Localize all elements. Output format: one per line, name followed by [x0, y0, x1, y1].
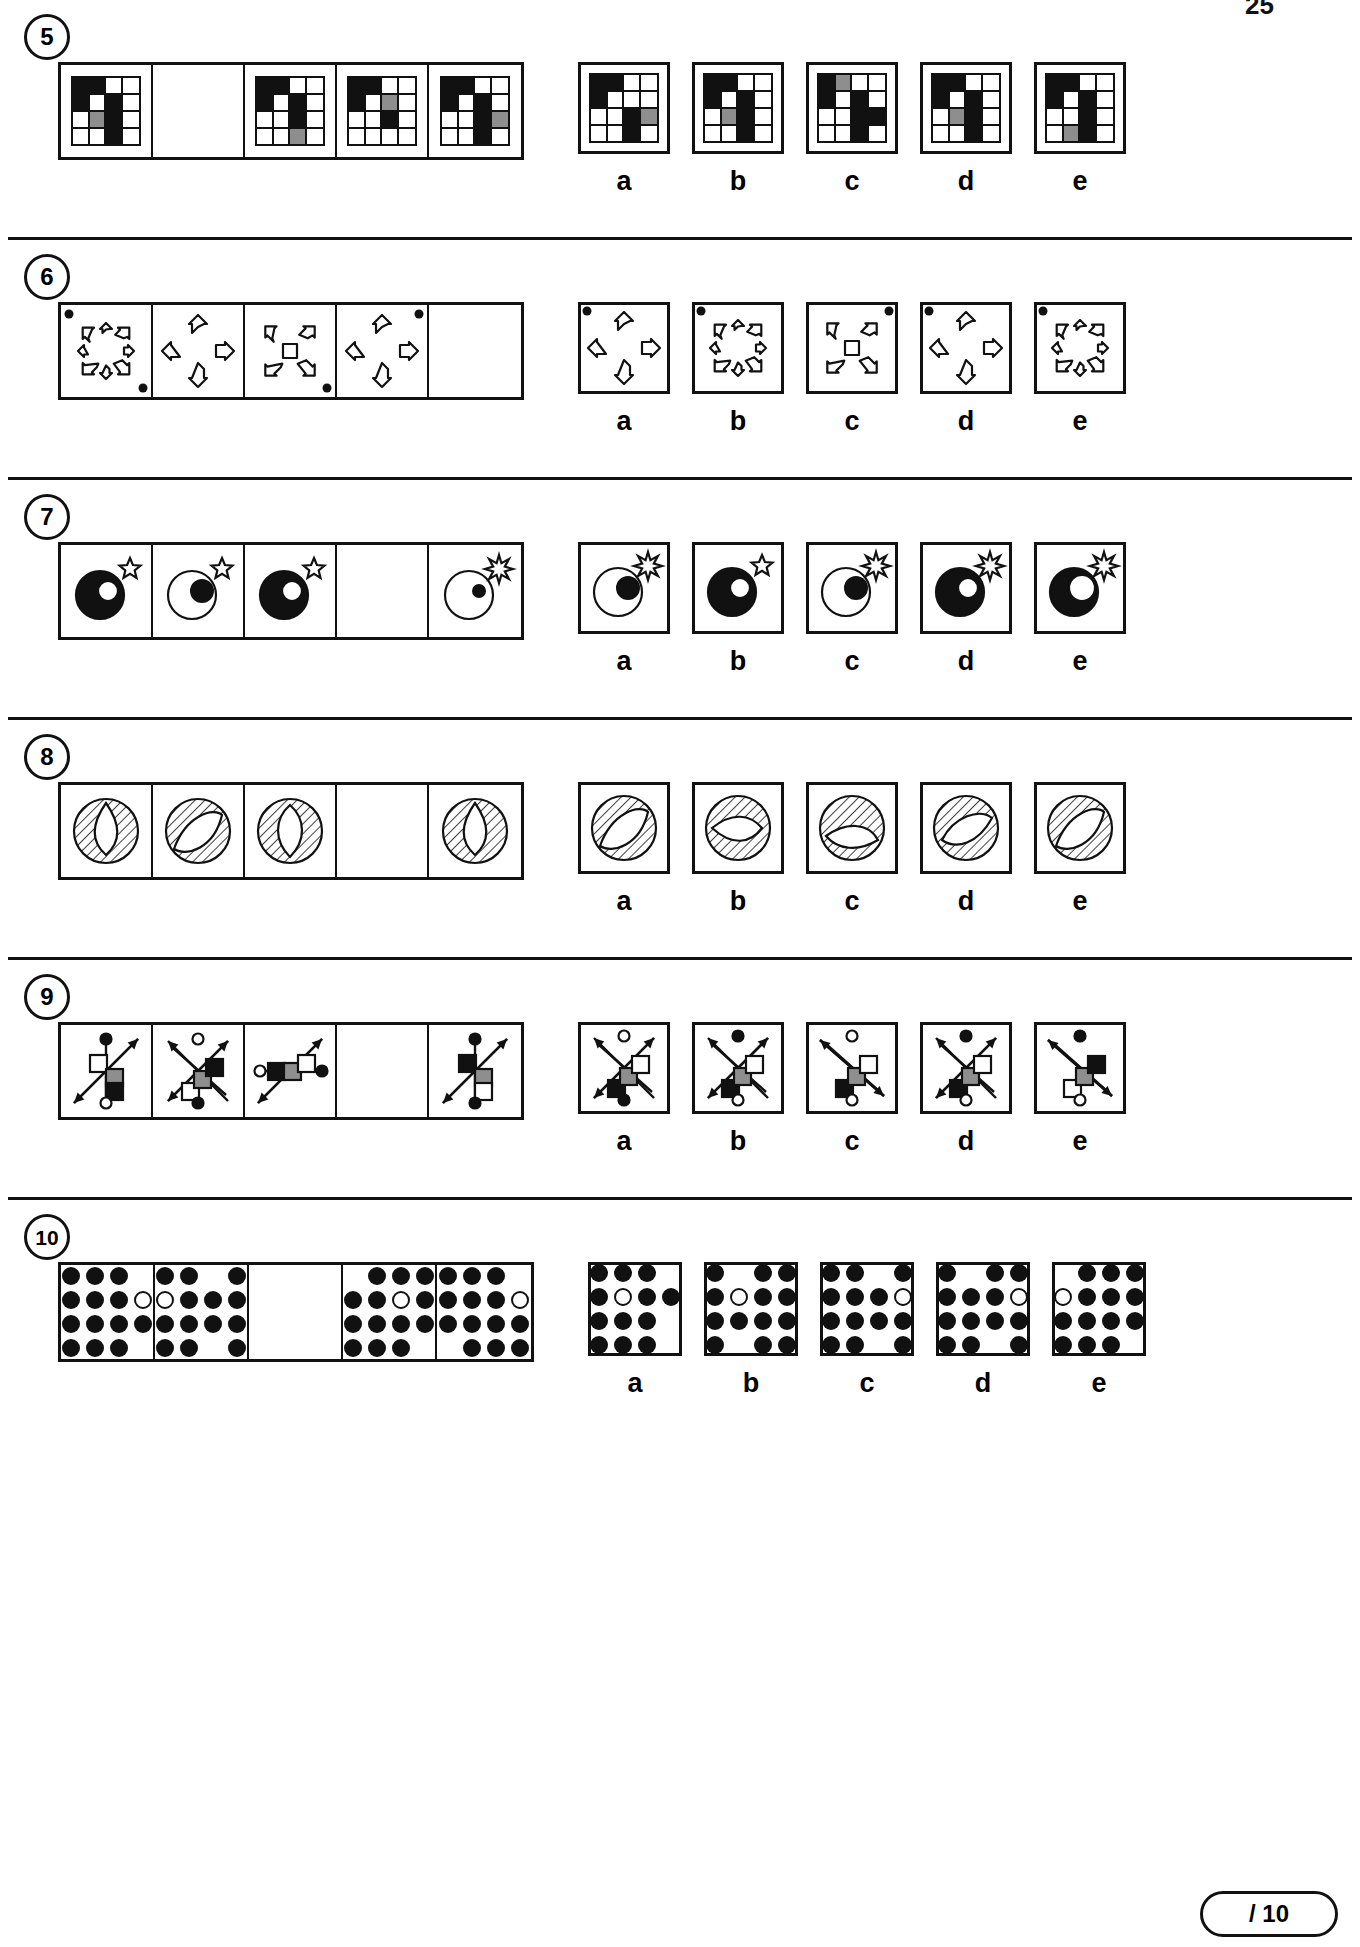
item-row: abcde: [0, 62, 1360, 197]
option-figure[interactable]: [920, 302, 1012, 394]
pattern-grid: [440, 76, 510, 146]
arrow-cluster-figure: [924, 306, 1008, 390]
answer-option-b[interactable]: b: [692, 1022, 784, 1157]
answer-option-c[interactable]: c: [806, 542, 898, 677]
option-figure[interactable]: [578, 62, 670, 154]
item-spacer: [0, 1157, 1360, 1197]
option-figure[interactable]: [806, 1022, 898, 1114]
hatched-circle-figure: [64, 789, 148, 873]
option-figure[interactable]: [920, 1022, 1012, 1114]
dot-matrix: [706, 1264, 796, 1354]
answer-option-c[interactable]: c: [806, 302, 898, 437]
option-figure[interactable]: [936, 1262, 1030, 1356]
option-figure[interactable]: [1052, 1262, 1146, 1356]
option-label: a: [616, 166, 631, 197]
answer-option-a[interactable]: a: [578, 1022, 670, 1157]
option-label: d: [958, 646, 975, 677]
answer-option-b[interactable]: b: [692, 62, 784, 197]
option-figure[interactable]: [578, 302, 670, 394]
answer-option-a[interactable]: a: [578, 62, 670, 197]
option-figure[interactable]: [1034, 542, 1126, 634]
answer-option-e[interactable]: e: [1034, 62, 1126, 197]
option-figure[interactable]: [578, 782, 670, 874]
option-figure[interactable]: [806, 542, 898, 634]
option-label: e: [1072, 886, 1087, 917]
option-figure[interactable]: [820, 1262, 914, 1356]
question-item-6: 6abcde: [0, 237, 1360, 477]
answer-option-b[interactable]: b: [692, 542, 784, 677]
option-figure[interactable]: [692, 62, 784, 154]
question-item-7: 7abcde: [0, 477, 1360, 717]
answer-option-e[interactable]: e: [1034, 542, 1126, 677]
arrow-cluster-figure: [582, 306, 666, 390]
option-label: d: [958, 406, 975, 437]
option-figure[interactable]: [692, 542, 784, 634]
answer-option-c[interactable]: c: [806, 782, 898, 917]
stem-blank-cell[interactable]: [337, 1025, 429, 1117]
option-figure[interactable]: [692, 1022, 784, 1114]
option-figure[interactable]: [806, 62, 898, 154]
stem-cell-3: [245, 305, 337, 397]
stem-blank-cell[interactable]: [429, 305, 521, 397]
answer-option-d[interactable]: d: [920, 1022, 1012, 1157]
item-number-badge: 9: [24, 974, 70, 1020]
answer-option-d[interactable]: d: [920, 302, 1012, 437]
stem-blank-cell[interactable]: [337, 545, 429, 637]
sequence-stem: [58, 782, 524, 880]
answer-option-b[interactable]: b: [692, 302, 784, 437]
option-figure[interactable]: [692, 302, 784, 394]
option-label: c: [844, 1126, 859, 1157]
dot-matrix: [62, 1267, 152, 1357]
option-figure[interactable]: [692, 782, 784, 874]
option-figure[interactable]: [920, 542, 1012, 634]
option-figure[interactable]: [806, 782, 898, 874]
answer-option-c[interactable]: c: [806, 1022, 898, 1157]
option-figure[interactable]: [920, 62, 1012, 154]
option-label: a: [616, 886, 631, 917]
option-figure[interactable]: [1034, 302, 1126, 394]
answer-option-a[interactable]: a: [578, 302, 670, 437]
arrow-cluster-figure: [1038, 306, 1122, 390]
answer-option-b[interactable]: b: [704, 1262, 798, 1399]
option-figure[interactable]: [806, 302, 898, 394]
option-label: c: [844, 886, 859, 917]
option-figure[interactable]: [578, 1022, 670, 1114]
answer-option-d[interactable]: d: [920, 782, 1012, 917]
option-figure[interactable]: [920, 782, 1012, 874]
answer-option-d[interactable]: d: [936, 1262, 1030, 1399]
option-figure[interactable]: [1034, 62, 1126, 154]
option-label: a: [616, 646, 631, 677]
item-spacer: [0, 677, 1360, 717]
option-figure[interactable]: [704, 1262, 798, 1356]
answer-option-e[interactable]: e: [1052, 1262, 1146, 1399]
answer-option-e[interactable]: e: [1034, 1022, 1126, 1157]
item-number-badge: 10: [24, 1214, 70, 1260]
answer-option-c[interactable]: c: [820, 1262, 914, 1399]
dot-matrix: [938, 1264, 1028, 1354]
answer-option-d[interactable]: d: [920, 62, 1012, 197]
stem-blank-cell[interactable]: [249, 1265, 343, 1359]
option-figure[interactable]: [1034, 1022, 1126, 1114]
answer-option-b[interactable]: b: [692, 782, 784, 917]
hatched-circle-figure: [433, 789, 517, 873]
answer-option-d[interactable]: d: [920, 542, 1012, 677]
option-figure[interactable]: [578, 542, 670, 634]
dot-matrix: [156, 1267, 246, 1357]
option-figure[interactable]: [1034, 782, 1126, 874]
arrow-cluster-figure: [156, 309, 240, 393]
answer-option-c[interactable]: c: [806, 62, 898, 197]
answer-option-a[interactable]: a: [578, 782, 670, 917]
score-box[interactable]: / 10: [1200, 1891, 1338, 1937]
item-number-badge: 5: [24, 14, 70, 60]
answer-options: abcde: [578, 782, 1126, 917]
option-label: c: [844, 406, 859, 437]
answer-option-a[interactable]: a: [588, 1262, 682, 1399]
answer-option-a[interactable]: a: [578, 542, 670, 677]
stem-blank-cell[interactable]: [337, 785, 429, 877]
item-number-badge: 8: [24, 734, 70, 780]
answer-option-e[interactable]: e: [1034, 782, 1126, 917]
stem-blank-cell[interactable]: [153, 65, 245, 157]
option-figure[interactable]: [588, 1262, 682, 1356]
answer-option-e[interactable]: e: [1034, 302, 1126, 437]
pattern-grid: [589, 73, 659, 143]
